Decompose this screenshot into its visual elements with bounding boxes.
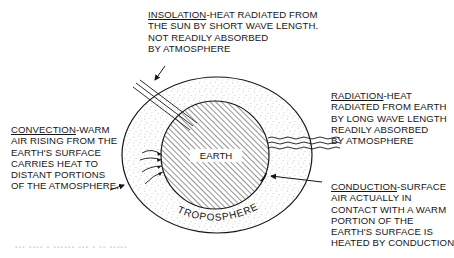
conduction-line: HEATED BY CONDUCTION	[331, 237, 454, 248]
conduction-label: CONDUCTION-SURFACE AIR ACTUALLY IN CONTA…	[331, 181, 454, 249]
insolation-line: BY ATMOSPHERE	[148, 43, 318, 54]
radiation-line: -HEAT	[383, 90, 412, 101]
convection-line: DISTANT PORTIONS	[11, 169, 119, 180]
insolation-line: -HEAT RADIATED FROM	[206, 9, 317, 20]
faint-caption-marks: ▪▪▪ ▪▪▪▪ ▪ ▪▪▪▪▪▪ ▪▪▪ ▪ ▪▪ ▪▪▪▪▪	[15, 244, 128, 250]
earth-label: EARTH	[190, 149, 242, 162]
convection-line: -WARM	[76, 124, 110, 135]
radiation-line: READILY ABSORBED	[331, 124, 447, 135]
insolation-term: INSOLATION	[148, 9, 206, 20]
conduction-line: CONTACT WITH A WARM	[331, 204, 454, 215]
conduction-line: -SURFACE	[397, 181, 446, 192]
insolation-label: INSOLATION-HEAT RADIATED FROM THE SUN BY…	[148, 9, 318, 54]
convection-label: CONVECTION-WARM AIR RISING FROM THE EART…	[11, 124, 119, 192]
insolation-pointer-arrow	[155, 66, 165, 80]
radiation-line: BY LONG WAVE LENGTH	[331, 113, 447, 124]
convection-line: AIR RISING FROM THE	[11, 135, 119, 146]
radiation-term: RADIATION	[331, 90, 383, 101]
conduction-line: PORTION OF THE	[331, 215, 454, 226]
radiation-line: RADIATED FROM EARTH	[331, 101, 447, 112]
convection-line: OF THE ATMOSPHERE.	[11, 180, 119, 191]
insolation-line: NOT READILY ABSORBED	[148, 32, 318, 43]
conduction-term: CONDUCTION	[331, 181, 397, 192]
convection-line: CARRIES HEAT TO	[11, 158, 119, 169]
insolation-line: THE SUN BY SHORT WAVE LENGTH.	[148, 20, 318, 31]
convection-term: CONVECTION	[11, 124, 76, 135]
conduction-line: AIR ACTUALLY IN	[331, 192, 454, 203]
convection-line: EARTH'S SURFACE	[11, 147, 119, 158]
conduction-line: EARTH'S SURFACE IS	[331, 226, 454, 237]
radiation-label: RADIATION-HEAT RADIATED FROM EARTH BY LO…	[331, 90, 447, 146]
radiation-line: BY ATMOSPHERE	[331, 135, 447, 146]
